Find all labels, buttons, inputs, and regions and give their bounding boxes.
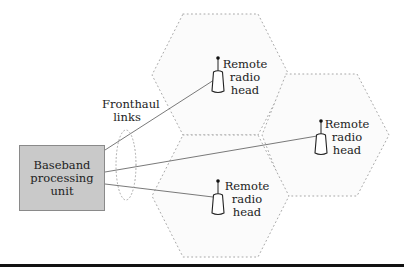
c-ran-diagram: Baseband processing unit Fronthaul links…	[0, 0, 404, 271]
bottom-rule	[0, 264, 404, 267]
rrh-label-bottom: Remote radio head	[224, 180, 270, 219]
fronthaul-links-label: Fronthaul links	[102, 98, 152, 124]
baseband-processing-unit: Baseband processing unit	[19, 145, 105, 211]
fronthaul-ellipse	[116, 130, 136, 200]
rrh-label-right: Remote radio head	[324, 118, 370, 157]
rrh-label-top: Remote radio head	[222, 58, 268, 97]
baseband-unit-label: Baseband processing unit	[30, 159, 93, 198]
